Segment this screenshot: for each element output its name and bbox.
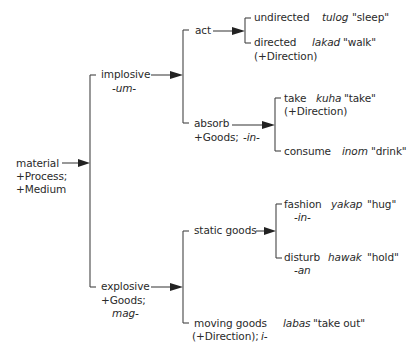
node-feature: +Medium bbox=[16, 183, 66, 196]
node-label: absorb bbox=[194, 117, 229, 130]
node-gloss: "take out" bbox=[313, 317, 365, 330]
node-label: disturb bbox=[284, 251, 320, 264]
node-example: hawak bbox=[328, 251, 362, 264]
node-example: yakap bbox=[331, 198, 362, 211]
arrowhead-icon bbox=[232, 27, 245, 35]
arrowhead-icon bbox=[264, 227, 276, 235]
node-gloss: "hug" bbox=[367, 198, 396, 211]
node-marker: -an bbox=[294, 264, 311, 277]
node-label: directed bbox=[254, 36, 296, 49]
node-example: labas bbox=[283, 317, 310, 330]
node-gloss: "drink" bbox=[371, 145, 407, 158]
node-label: act bbox=[195, 24, 211, 37]
node-marker: -um- bbox=[112, 82, 136, 95]
node-label: take bbox=[284, 92, 306, 105]
node-feature: +Goods; bbox=[101, 294, 146, 307]
node-marker: -in- bbox=[294, 211, 311, 224]
node-marker: mag- bbox=[112, 307, 139, 320]
node-feature: (+Direction) bbox=[254, 50, 317, 63]
arrowhead-icon bbox=[170, 71, 183, 79]
node-label: moving goods bbox=[194, 317, 267, 330]
node-marker: -in- bbox=[243, 131, 260, 144]
node-example: inom bbox=[342, 145, 368, 158]
node-label: explosive bbox=[101, 280, 150, 293]
node-label: fashion bbox=[284, 198, 322, 211]
node-example: kuha bbox=[316, 92, 341, 105]
node-feature: +Process; bbox=[16, 170, 67, 183]
node-label: material bbox=[16, 157, 59, 170]
node-gloss: "walk" bbox=[343, 36, 376, 49]
node-example: lakad bbox=[312, 36, 340, 49]
node-marker: i- bbox=[261, 330, 268, 343]
node-label: static goods bbox=[194, 224, 257, 237]
node-label: implosive bbox=[101, 68, 150, 81]
arrowhead-icon bbox=[262, 121, 275, 129]
node-feature: +Goods; bbox=[194, 131, 239, 144]
node-label: consume bbox=[284, 145, 331, 158]
arrowhead-icon bbox=[170, 283, 183, 291]
node-gloss: "take" bbox=[344, 92, 376, 105]
node-gloss: "sleep" bbox=[352, 11, 389, 24]
node-feature: (+Direction) bbox=[284, 105, 347, 118]
node-label: undirected bbox=[254, 11, 309, 24]
node-example: tulog bbox=[322, 11, 348, 24]
node-feature: (+Direction); bbox=[192, 330, 259, 343]
node-gloss: "hold" bbox=[367, 251, 399, 264]
arrowhead-icon bbox=[78, 159, 90, 167]
